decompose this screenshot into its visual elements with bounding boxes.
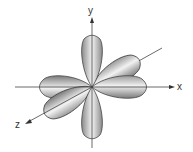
z-axis-label: z — [15, 119, 20, 130]
x-axis-arrow-icon — [169, 85, 175, 89]
y-axis-label: y — [88, 5, 93, 16]
orbital-diagram: x y z — [0, 0, 193, 152]
x-axis-label: x — [177, 81, 182, 92]
z-axis-arrow-icon — [25, 119, 32, 124]
y-axis-arrow-icon — [90, 17, 94, 23]
diagram-canvas: x y z — [0, 0, 193, 152]
